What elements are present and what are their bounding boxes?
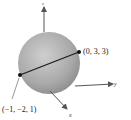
x-axis xyxy=(50,91,67,109)
y-axis xyxy=(75,84,113,86)
sphere-diagram: z y x (0, 3, 3) (−1, −2, 1) xyxy=(0,0,131,120)
endpoint-a-dot xyxy=(77,50,81,54)
leader-line xyxy=(12,78,19,99)
y-axis-label: y xyxy=(113,81,117,87)
z-axis-label: z xyxy=(41,1,44,6)
endpoint-b-dot xyxy=(18,73,22,77)
endpoint-b-label: (−1, −2, 1) xyxy=(2,105,37,114)
x-axis-label: x xyxy=(68,112,72,118)
endpoint-a-label: (0, 3, 3) xyxy=(83,47,109,56)
